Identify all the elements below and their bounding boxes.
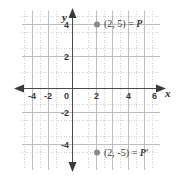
point-p-coords: (2, 5) = [104, 18, 134, 29]
x-tick-label-neg4: -4 [28, 92, 36, 101]
point-p-name: P [136, 18, 142, 29]
point-p-prime-coords: (2, -5) = [104, 147, 137, 158]
y-axis-bottom-arrowhead [69, 162, 77, 172]
point-p-annotation: (2, 5) = P [104, 19, 142, 29]
x-axis-name: x [165, 88, 171, 99]
origin-label: 0 [64, 92, 69, 101]
point-p-prime-name: P′ [140, 147, 149, 158]
y-tick-label-neg4: -4 [61, 141, 69, 150]
graph-canvas [0, 0, 176, 177]
y-tick-label-neg2: -2 [61, 109, 69, 118]
x-tick-label-4: 4 [126, 92, 131, 101]
horizontal-gridlines [22, 17, 160, 153]
graph-svg [0, 0, 176, 177]
point-p-prime-annotation: (2, -5) = P′ [104, 148, 149, 158]
x-axis-left-arrowhead [14, 85, 24, 93]
y-axis-top-arrowhead [69, 8, 77, 18]
data-point-p-prime [94, 150, 100, 156]
x-tick-label-6: 6 [152, 92, 157, 101]
y-axis-name: y [62, 12, 67, 23]
x-tick-label-neg2: -2 [44, 92, 52, 101]
data-point-p [94, 22, 100, 28]
y-tick-label-2: 2 [64, 53, 69, 62]
coordinate-plane-figure: -4 -2 2 4 6 0 4 2 -2 -4 y x (2, 5) = P (… [0, 0, 176, 177]
x-tick-label-2: 2 [94, 92, 99, 101]
